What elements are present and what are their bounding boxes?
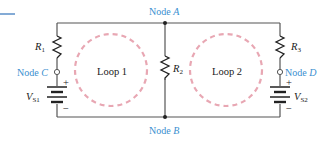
source-vs2-label: VS2 xyxy=(294,91,308,104)
battery-vs1-symbol xyxy=(47,87,67,102)
vs1-plus-sign: + xyxy=(63,77,69,88)
node-a-junction xyxy=(163,21,167,25)
resistor-r3-label: R3 xyxy=(290,41,301,54)
resistor-r3-symbol xyxy=(276,36,284,58)
resistor-r1-label: R1 xyxy=(34,41,45,54)
loop-2-label: Loop 2 xyxy=(212,66,242,77)
node-c-label: Node C xyxy=(17,67,48,78)
wires xyxy=(57,23,280,117)
battery-vs2-symbol xyxy=(270,87,290,102)
resistor-r2-symbol xyxy=(161,56,169,80)
resistor-r1-symbol xyxy=(53,36,61,58)
node-c-terminal xyxy=(54,69,59,74)
node-d-terminal xyxy=(277,69,282,74)
vs1-minus-sign: − xyxy=(63,103,69,114)
vs2-plus-sign: + xyxy=(286,77,292,88)
circuit-diagram: Node A Node B Node C Node D R1 R2 R3 VS1… xyxy=(0,0,336,141)
source-vs1-label: VS1 xyxy=(26,91,40,104)
node-a-label: Node A xyxy=(149,6,180,17)
resistor-r2-label: R2 xyxy=(172,63,183,76)
node-b-label: Node B xyxy=(149,125,179,136)
vs2-minus-sign: − xyxy=(286,103,292,114)
node-b-junction xyxy=(163,115,167,119)
loop-1-label: Loop 1 xyxy=(97,66,127,77)
